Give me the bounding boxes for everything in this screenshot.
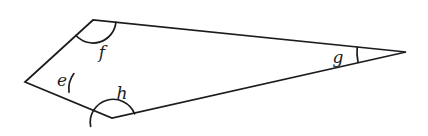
angle-arc-e [69,74,74,93]
angle-arc-e-group [69,74,74,93]
angle-arc-h [90,99,134,126]
angle-label-h: h [117,85,128,102]
angle-arc-f-group [76,22,116,43]
angle-arc-g-group [357,47,358,62]
angle-label-e: e [57,72,67,89]
angle-label-g: g [333,49,344,66]
quadrilateral-outline [25,20,406,118]
angle-label-f: f [99,44,105,61]
angle-arc-h-group [90,99,134,126]
angle-diagram-figure: e f g h [0,0,428,136]
angle-arc-group [69,22,358,126]
angle-arc-f [76,22,116,43]
diagram-canvas [0,0,428,136]
angle-arc-g [357,47,358,62]
